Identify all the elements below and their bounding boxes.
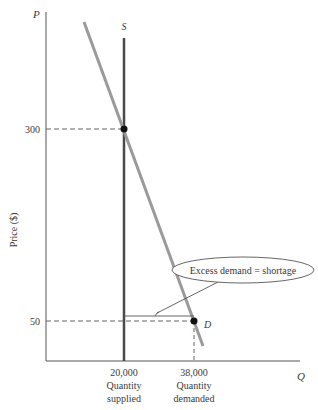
x-tick-20000: 20,000	[110, 367, 138, 378]
x-tick-38000-line2: demanded	[173, 393, 214, 404]
y-tick-300: 300	[25, 124, 40, 135]
q-axis-label: Q	[297, 370, 305, 382]
p-axis-label: P	[32, 8, 40, 20]
demand-label: D	[203, 319, 212, 330]
x-tick-38000: 38,000	[180, 367, 208, 378]
callout-text: Excess demand = shortage	[190, 265, 297, 276]
demand-curve	[84, 22, 203, 346]
equilibrium-dot	[121, 126, 128, 133]
supply-label: S	[122, 21, 127, 32]
demand-dot	[191, 318, 198, 325]
y-tick-50: 50	[30, 316, 40, 327]
x-tick-20000-line2: supplied	[107, 393, 141, 404]
price-axis-title: Price ($)	[8, 213, 20, 248]
supply-demand-chart: P Q Price ($) 300 50 S D Excess demand =…	[0, 0, 318, 410]
x-tick-38000-line1: Quantity	[177, 380, 212, 391]
x-tick-20000-line1: Quantity	[107, 380, 142, 391]
